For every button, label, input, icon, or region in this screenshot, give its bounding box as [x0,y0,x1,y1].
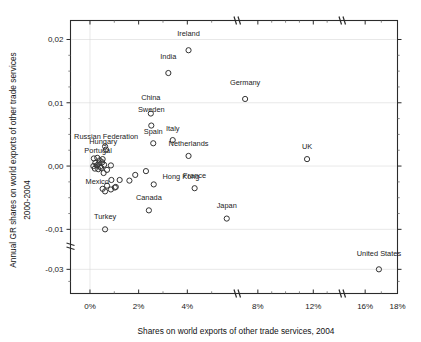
y-tick-label-0: 0,02 [48,35,64,44]
point-label-spain: Spain [144,127,163,136]
point-labels-layer: IrelandIndiaGermanyChinaSwedenSpainItaly… [74,29,401,257]
data-point-unlabeled-16 [109,177,114,182]
point-label-china: China [141,93,161,102]
data-point-india [166,70,171,75]
y-tick-label-4: -0,03 [45,265,64,274]
x-tick-label-16%: 16% [357,302,373,311]
point-label-germany: Germany [230,78,261,87]
x-axis-title: Shares on world exports of other trade s… [138,326,335,336]
point-label-france: France [183,171,206,180]
point-label-portugal: Portugal [84,146,112,155]
y-tick-label-2: 0,00 [48,162,64,171]
point-label-sweden: Sweden [138,105,165,114]
y-axis-title-line1: Annual GR shares on world exports of oth… [8,52,18,267]
point-label-ireland: Ireland [177,29,200,38]
point-label-canada: Canada [136,193,163,202]
point-label-united-states: United States [357,249,402,258]
x-tick-label-18%: 18% [389,302,405,311]
x-tick-label-0%: 0% [84,302,96,311]
y-tick-label-3: -0,01 [45,225,64,234]
data-point-japan [224,216,229,221]
data-point-uk [304,157,309,162]
data-point-germany [243,96,248,101]
data-point-unlabeled-14 [108,163,113,168]
axes-layer [67,17,402,298]
data-point-unlabeled-13 [104,167,109,172]
point-label-uk: UK [302,142,312,151]
y-tick-label-1: 0,01 [48,99,64,108]
point-label-netherlands: Netherlands [169,139,209,148]
gridlines [72,22,397,293]
data-point-hong-kong [151,182,156,187]
data-point-unlabeled-22 [127,178,132,183]
scatter-chart: IrelandIndiaGermanyChinaSwedenSpainItaly… [0,0,421,342]
data-point-france [192,186,197,191]
point-label-india: India [160,52,177,61]
point-label-turkey: Turkey [94,212,117,221]
data-point-canada [146,208,151,213]
x-tick-label-2%: 2% [133,302,145,311]
data-point-unlabeled-20 [117,177,122,182]
plot-frame [71,21,398,294]
data-point-unlabeled-15 [101,170,106,175]
point-label-italy: Italy [166,124,180,133]
data-point-spain [151,141,156,146]
x-tick-label-8%: 8% [252,302,264,311]
data-point-netherlands [186,153,191,158]
point-label-mexico: Mexico [86,177,109,186]
data-point-unlabeled-24 [143,169,148,174]
data-point-ireland [186,48,191,53]
point-label-japan: Japan [217,201,237,210]
x-tick-label-12%: 12% [305,302,321,311]
x-tick-label-4%: 4% [182,302,194,311]
plot-svg: IrelandIndiaGermanyChinaSwedenSpainItaly… [0,0,421,342]
data-point-unlabeled-23 [133,172,138,177]
point-label-hungary: Hungary [89,137,117,146]
y-axis-title-line2: 2000-2004 [22,180,32,220]
